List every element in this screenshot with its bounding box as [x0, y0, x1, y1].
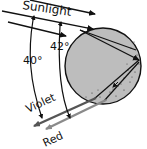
rainbow-raindrop-diagram: Sunlight 42° 40° Violet Red [0, 0, 147, 149]
sunlight-ray-2 [8, 22, 66, 36]
violet-label: Violet [24, 90, 58, 115]
diagram-canvas: Sunlight 42° 40° Violet Red [0, 0, 147, 149]
raindrop [65, 28, 141, 104]
red-label: Red [41, 129, 65, 149]
angle-40-label: 40° [23, 54, 43, 67]
red-ray [46, 100, 106, 129]
angle-42-label: 42° [50, 40, 70, 53]
